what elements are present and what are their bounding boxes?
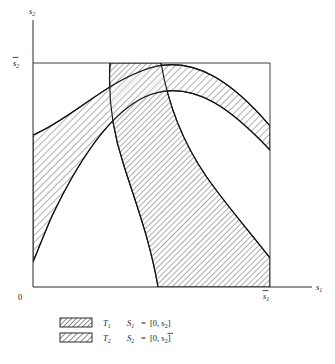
legend-set-name: S1 xyxy=(127,318,134,329)
dense-hatch-swatch xyxy=(60,318,92,327)
svg-text:s2: s2 xyxy=(13,58,19,69)
svg-text:s1: s1 xyxy=(263,291,269,302)
x-axis-label: s1 xyxy=(316,282,322,293)
plot-regions xyxy=(33,63,270,287)
origin-label: 0 xyxy=(18,292,22,302)
legend-interval: [0, s2] xyxy=(150,318,171,329)
y-axis-label: s2 xyxy=(29,6,35,17)
legend-set-name: S2 xyxy=(127,333,134,344)
diagram-svg: s2 s1 0 s2 s1 T1 S1 = [0 xyxy=(0,0,335,364)
x-tick-label: s1 xyxy=(263,291,270,303)
legend-equals: = xyxy=(141,333,146,343)
region-diagram-figure: s2 s1 0 s2 s1 T1 S1 = [0 xyxy=(0,0,335,364)
y-tick-label: s2 xyxy=(13,57,20,69)
legend-interval: [0, s2] xyxy=(150,333,171,344)
legend: T1 S1 = [0, s2] T2 S2 = [0, s2] xyxy=(60,318,173,344)
legend-symbol: T1 xyxy=(103,318,111,329)
legend-row: T2 S2 = [0, s2] xyxy=(60,333,173,344)
legend-row: T1 S1 = [0, s2] xyxy=(60,318,171,329)
legend-equals: = xyxy=(141,318,146,328)
coarse-hatch-swatch xyxy=(60,333,92,342)
legend-symbol: T2 xyxy=(103,333,111,344)
